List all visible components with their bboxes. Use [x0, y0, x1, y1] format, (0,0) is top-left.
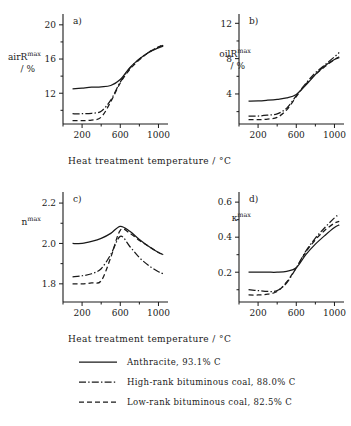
- y-tick-label: 0.4: [218, 232, 233, 242]
- x-tick-label: 1000: [323, 130, 346, 140]
- y-axis-label: oilRmax: [219, 47, 251, 59]
- series-curve: [249, 221, 340, 295]
- legend-label: High-rank bituminous coal, 88.0% C: [127, 377, 296, 387]
- figure-root: 1216202006001000a)airRmax/ % 48122006001…: [0, 0, 351, 426]
- legend-label: Anthracite, 93.1% C: [127, 357, 221, 367]
- series-curve: [73, 45, 164, 121]
- x-axis-title-bottom-row: Heat treatment temperature / °C: [68, 334, 231, 344]
- y-axis-label: κmax: [232, 211, 252, 223]
- y-axis-label: airRmax: [8, 50, 41, 62]
- subplot-b: 48122006001000b)oilRmax/ %: [176, 4, 351, 154]
- y-tick-label: 2.0: [42, 239, 57, 249]
- series-curve: [73, 45, 164, 113]
- panel-letter: a): [73, 16, 82, 26]
- series-curve: [249, 52, 340, 116]
- panel-letter: c): [73, 194, 82, 204]
- legend-item: High-rank bituminous coal, 88.0% C: [0, 372, 351, 392]
- y-tick-label: 16: [45, 54, 57, 64]
- x-tick-label: 600: [112, 308, 129, 318]
- y-axis-unit: / %: [21, 64, 36, 74]
- subplot-d: 0.20.40.62006001000d)κmax: [176, 182, 351, 332]
- subplot-a: 1216202006001000a)airRmax/ %: [0, 4, 175, 154]
- x-tick-label: 1000: [323, 308, 346, 318]
- panel-letter: d): [249, 194, 258, 204]
- x-tick-label: 600: [288, 130, 305, 140]
- legend-label: Low-rank bituminous coal, 82.5% C: [127, 397, 292, 407]
- legend-key-solid: [78, 356, 118, 368]
- legend-key-dashed: [78, 396, 118, 408]
- y-tick-label: 1.8: [42, 279, 57, 289]
- y-tick-label: 20: [45, 20, 57, 30]
- legend: Anthracite, 93.1% C High-rank bituminous…: [0, 352, 351, 412]
- series-curve: [249, 225, 340, 272]
- legend-key-dashdot: [78, 376, 118, 388]
- x-axis-title-top-row: Heat treatment temperature / °C: [68, 156, 231, 166]
- subplot-b-canvas: 48122006001000b)oilRmax/ %: [176, 4, 351, 154]
- subplot-c-canvas: 1.82.02.22006001000c)nmax: [0, 182, 175, 332]
- y-axis-label: nmax: [21, 215, 41, 227]
- y-tick-label: 0.2: [218, 268, 232, 278]
- series-curve: [73, 226, 164, 254]
- y-tick-label: 4: [226, 89, 232, 99]
- x-tick-label: 1000: [147, 130, 170, 140]
- legend-item: Anthracite, 93.1% C: [0, 352, 351, 372]
- x-tick-label: 600: [288, 308, 305, 318]
- series-curve: [249, 214, 340, 291]
- x-tick-label: 200: [249, 308, 266, 318]
- subplot-a-canvas: 1216202006001000a)airRmax/ %: [0, 4, 175, 154]
- x-tick-label: 600: [112, 130, 129, 140]
- y-tick-label: 2.2: [42, 198, 56, 208]
- subplot-d-canvas: 0.20.40.62006001000d)κmax: [176, 182, 351, 332]
- subplot-c: 1.82.02.22006001000c)nmax: [0, 182, 175, 332]
- x-tick-label: 200: [73, 308, 90, 318]
- x-tick-label: 200: [249, 130, 266, 140]
- y-tick-label: 0.6: [218, 197, 233, 207]
- y-tick-label: 12: [221, 19, 232, 29]
- y-axis-unit: / %: [231, 61, 246, 71]
- series-curve: [249, 57, 340, 120]
- panel-letter: b): [249, 16, 258, 26]
- x-tick-label: 200: [73, 130, 90, 140]
- series-curve: [73, 46, 164, 89]
- legend-item: Low-rank bituminous coal, 82.5% C: [0, 392, 351, 412]
- y-tick-label: 12: [45, 89, 56, 99]
- x-tick-label: 1000: [147, 308, 170, 318]
